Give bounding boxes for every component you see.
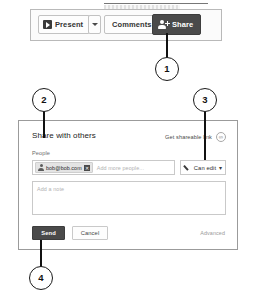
present-button[interactable]: Present: [38, 15, 90, 34]
chevron-down-icon: [92, 23, 98, 26]
share-button-label: Share: [172, 20, 193, 29]
present-button-label: Present: [55, 20, 83, 29]
callout-number-2: 2: [41, 95, 46, 105]
callout-marker-4: 4: [29, 266, 53, 290]
people-input[interactable]: bob@bob.com ✕ Add more people...: [32, 160, 175, 175]
recipient-email: bob@bob.com: [46, 165, 82, 171]
add-people-placeholder: Add more people...: [97, 165, 144, 171]
people-row: bob@bob.com ✕ Add more people... Can edi…: [32, 160, 226, 175]
chevron-down-icon: ▾: [219, 165, 222, 171]
close-icon[interactable]: ✕: [84, 165, 90, 171]
get-shareable-link-button[interactable]: Get shareable link ∞: [165, 132, 226, 142]
note-placeholder: Add a note: [37, 186, 64, 192]
person-icon: [38, 164, 44, 171]
link-icon: ∞: [216, 132, 226, 142]
callout-leader-3: [204, 110, 206, 160]
permission-label: Can edit: [194, 165, 216, 171]
note-textarea[interactable]: Add a note: [32, 181, 226, 215]
permission-dropdown[interactable]: Can edit ▾: [180, 160, 226, 175]
send-button[interactable]: Send: [32, 226, 65, 240]
people-label: People: [32, 150, 50, 156]
callout-marker-1: 1: [155, 57, 179, 81]
callout-number-4: 4: [38, 273, 43, 283]
pencil-icon: [184, 164, 191, 171]
callout-number-1: 1: [164, 64, 169, 74]
share-button[interactable]: Share: [152, 14, 201, 35]
screenshot-canvas: Present Comments Share Share with others…: [0, 0, 254, 308]
comments-button-label: Comments: [112, 20, 152, 29]
present-dropdown-button[interactable]: [88, 15, 101, 34]
cropped-edge-rule: [104, 3, 208, 4]
callout-leader-2: [43, 110, 45, 138]
callout-number-3: 3: [202, 95, 207, 105]
callout-leader-4: [40, 240, 42, 268]
play-screen-icon: [43, 20, 52, 29]
recipient-chip[interactable]: bob@bob.com ✕: [35, 162, 93, 173]
callout-marker-2: 2: [32, 88, 56, 112]
dialog-title: Share with others: [32, 131, 96, 140]
callout-leader-1: [166, 33, 168, 59]
person-add-icon: [158, 20, 169, 30]
send-button-label: Send: [41, 230, 56, 236]
cancel-button-label: Cancel: [81, 230, 100, 236]
advanced-link[interactable]: Advanced: [200, 230, 225, 236]
cancel-button[interactable]: Cancel: [72, 226, 108, 240]
callout-marker-3: 3: [193, 88, 217, 112]
